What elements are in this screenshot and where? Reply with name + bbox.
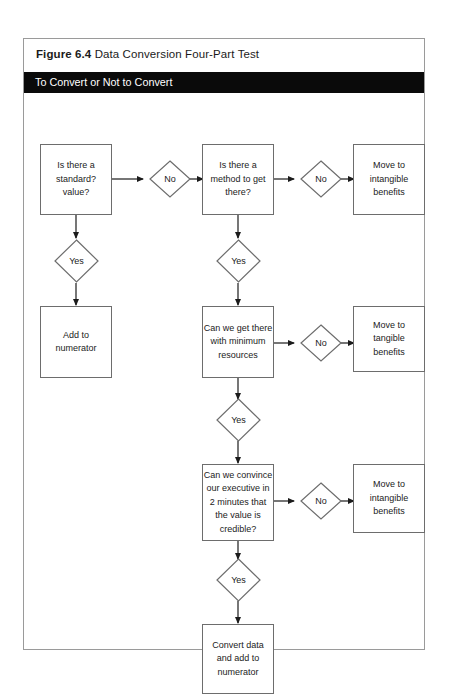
- node-label: Is there a method to get there?: [210, 159, 265, 200]
- decision-label: No: [315, 175, 327, 184]
- figure-caption: Figure 6.4 Data Conversion Four-Part Tes…: [24, 39, 424, 72]
- node-add-to-numerator[interactable]: Add to numerator: [40, 306, 112, 378]
- node-is-there-a-method-to-get-there[interactable]: Is there a method to get there?: [202, 144, 274, 215]
- decision-no-3[interactable]: No: [300, 324, 342, 362]
- decision-label: Yes: [231, 576, 246, 585]
- decision-no-4[interactable]: No: [300, 482, 342, 520]
- decision-label: No: [315, 497, 327, 506]
- decision-yes-1[interactable]: Yes: [54, 239, 99, 283]
- node-can-we-convince-our-executive[interactable]: Can we convince our executive in 2 minut…: [202, 464, 274, 541]
- node-move-to-intangible-benefits-1[interactable]: Move to intangible benefits: [353, 144, 425, 215]
- flowchart-canvas: Is there a standard? value? Is there a m…: [24, 93, 424, 649]
- figure-frame: Figure 6.4 Data Conversion Four-Part Tes…: [23, 38, 425, 650]
- decision-yes-4[interactable]: Yes: [216, 558, 261, 602]
- node-label: Move to tangible benefits: [373, 319, 405, 360]
- node-label: Move to intangible benefits: [370, 159, 409, 200]
- node-label: Can we convince our executive in 2 minut…: [204, 469, 273, 537]
- decision-label: No: [164, 175, 176, 184]
- node-label: Convert data and add to numerator: [212, 639, 264, 680]
- decision-no-2[interactable]: No: [300, 160, 342, 198]
- decision-yes-3[interactable]: Yes: [216, 398, 261, 442]
- node-label: Move to intangible benefits: [370, 478, 409, 519]
- figure-number: Figure 6.4: [36, 48, 91, 60]
- node-label: Can we get there with minimum resources: [204, 322, 273, 363]
- figure-banner: To Convert or Not to Convert: [24, 72, 424, 93]
- decision-no-1[interactable]: No: [149, 160, 191, 198]
- figure-title: Data Conversion Four-Part Test: [95, 48, 260, 60]
- decision-label: Yes: [231, 257, 246, 266]
- node-move-to-tangible-benefits[interactable]: Move to tangible benefits: [353, 306, 425, 372]
- decision-label: Yes: [69, 257, 84, 266]
- node-move-to-intangible-benefits-2[interactable]: Move to intangible benefits: [353, 464, 425, 533]
- node-is-there-a-standard-value[interactable]: Is there a standard? value?: [40, 144, 112, 215]
- decision-label: Yes: [231, 416, 246, 425]
- node-label: Add to numerator: [55, 329, 96, 356]
- node-label: Is there a standard? value?: [56, 159, 96, 200]
- decision-label: No: [315, 339, 327, 348]
- decision-yes-2[interactable]: Yes: [216, 239, 261, 283]
- node-convert-data-and-add-to-numerator[interactable]: Convert data and add to numerator: [202, 624, 274, 694]
- node-can-we-get-there-with-minimum-resources[interactable]: Can we get there with minimum resources: [202, 306, 274, 378]
